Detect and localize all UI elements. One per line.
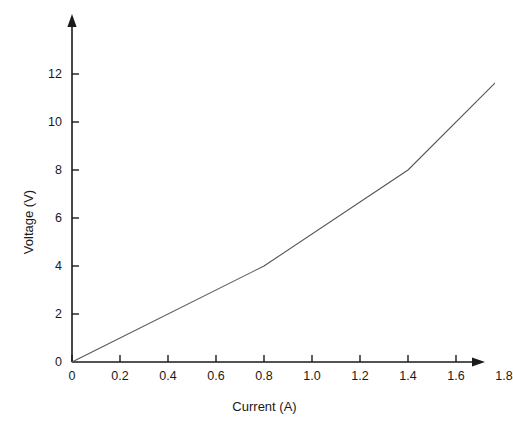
y-axis-title: Voltage (V) <box>22 190 35 254</box>
x-axis-arrowhead <box>472 357 485 366</box>
y-axis-arrowhead <box>67 14 76 27</box>
x-tick-label: 0 <box>69 370 76 383</box>
x-tick-label: 1.6 <box>447 370 464 383</box>
x-tick-label: 1.0 <box>303 370 320 383</box>
y-tick-label: 4 <box>55 260 62 273</box>
y-tick-label: 0 <box>55 356 62 369</box>
x-tick-label: 1.2 <box>351 370 368 383</box>
y-tick-label: 8 <box>55 164 62 177</box>
x-tick-label: 0.4 <box>159 370 176 383</box>
data-line-voltage-current-curve <box>72 74 495 362</box>
x-tick-label: 0.2 <box>111 370 128 383</box>
tick-marks-group <box>72 74 495 362</box>
x-axis-title: Current (A) <box>232 400 296 413</box>
y-tick-label: 12 <box>48 68 62 81</box>
y-tick-label: 2 <box>55 308 62 321</box>
x-tick-label: 1.8 <box>495 370 512 383</box>
y-tick-label: 10 <box>48 116 62 129</box>
x-tick-label: 0.6 <box>207 370 224 383</box>
x-tick-label: 1.4 <box>399 370 416 383</box>
x-tick-label: 0.8 <box>255 370 272 383</box>
axes-group <box>67 14 485 367</box>
y-tick-label: 6 <box>55 212 62 225</box>
data-series-group <box>72 74 495 362</box>
